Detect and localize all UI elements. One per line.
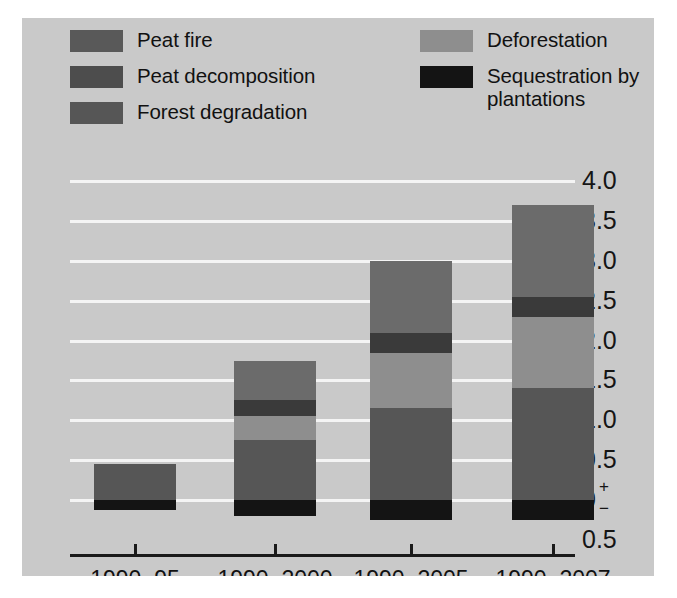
bar-segment-peat-decomposition [370, 333, 452, 353]
legend-item-label: Sequestration by plantations [487, 64, 639, 110]
x-tick-label: 1990–2005 [353, 566, 468, 576]
bar-segment-deforestation [370, 353, 452, 409]
x-axis-line [70, 554, 575, 557]
x-tick-mark [274, 544, 277, 555]
bar-1990–2000[interactable] [234, 130, 316, 540]
bar-1990–2007[interactable] [512, 130, 594, 540]
chart-legend: Peat firePeat decompositionForest degrad… [22, 18, 654, 130]
bar-segment-forest-degradation [370, 408, 452, 500]
legend-column-right: DeforestationSequestration by plantation… [420, 28, 639, 100]
legend-swatch-icon [70, 30, 123, 52]
bar-segment-peat-fire [234, 361, 316, 401]
bar-segment-sequestration-by-plantations [234, 500, 316, 516]
legend-item-label: Forest degradation [137, 100, 307, 123]
bar-segment-deforestation [512, 317, 594, 389]
bar-segment-sequestration-by-plantations [512, 500, 594, 520]
bar-segment-peat-fire [512, 205, 594, 297]
legend-swatch-icon [70, 102, 123, 124]
legend-column-left: Peat firePeat decompositionForest degrad… [70, 28, 315, 136]
bar-segment-peat-decomposition [512, 297, 594, 317]
bar-segment-sequestration-by-plantations [94, 500, 176, 510]
legend-item-label: Peat decomposition [137, 64, 315, 87]
bar-segment-deforestation [234, 416, 316, 440]
bar-segment-peat-decomposition [234, 400, 316, 416]
legend-swatch-icon [420, 66, 473, 88]
legend-swatch-icon [420, 30, 473, 52]
x-tick-label: 1990–95 [90, 566, 180, 576]
legend-item-label: Deforestation [487, 28, 608, 51]
bar-segment-peat-fire [370, 261, 452, 333]
y-zero-superscript: + [599, 478, 609, 495]
x-tick-mark [410, 544, 413, 555]
legend-item[interactable]: Sequestration by plantations [420, 64, 639, 92]
x-tick-mark [552, 544, 555, 555]
x-tick-label: 1990–2000 [217, 566, 332, 576]
chart-figure: Peat firePeat decompositionForest degrad… [22, 18, 654, 576]
legend-item[interactable]: Deforestation [420, 28, 639, 56]
bar-1990–2005[interactable] [370, 130, 452, 540]
bar-segment-sequestration-by-plantations [370, 500, 452, 520]
bar-segment-forest-degradation [234, 440, 316, 500]
x-tick-mark [134, 544, 137, 555]
bar-1990–95[interactable] [94, 130, 176, 540]
bar-segment-forest-degradation [94, 464, 176, 500]
plot-area: 4.03.53.02.52.01.51.00.50+−0.5 1990–9519… [22, 130, 654, 576]
y-zero-subscript: − [599, 500, 609, 517]
x-tick-label: 1990–2007 [495, 566, 610, 576]
legend-item-label: Peat fire [137, 28, 212, 51]
legend-swatch-icon [70, 66, 123, 88]
legend-item[interactable]: Peat decomposition [70, 64, 315, 92]
legend-item[interactable]: Peat fire [70, 28, 315, 56]
legend-item[interactable]: Forest degradation [70, 100, 315, 128]
bar-segment-forest-degradation [512, 388, 594, 500]
